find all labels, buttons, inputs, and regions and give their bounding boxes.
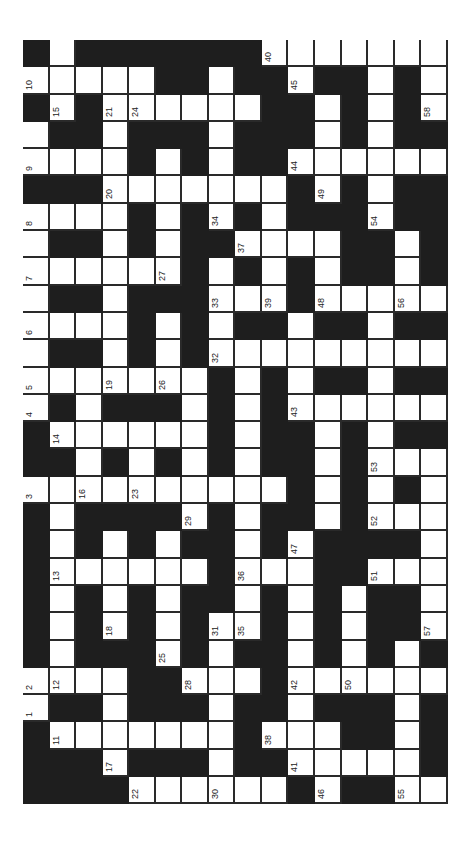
crossword-cell[interactable]: 42	[288, 668, 315, 695]
crossword-cell[interactable]	[315, 258, 342, 285]
crossword-cell[interactable]	[421, 340, 448, 367]
crossword-cell[interactable]	[103, 668, 130, 695]
crossword-cell[interactable]	[76, 722, 103, 749]
crossword-cell[interactable]	[209, 149, 236, 176]
crossword-cell[interactable]	[182, 395, 209, 422]
crossword-cell[interactable]	[395, 559, 422, 586]
crossword-cell[interactable]	[395, 504, 422, 531]
crossword-cell[interactable]	[288, 368, 315, 395]
crossword-cell[interactable]	[103, 722, 130, 749]
crossword-cell[interactable]	[315, 668, 342, 695]
crossword-cell[interactable]: 31	[209, 613, 236, 640]
crossword-cell[interactable]	[182, 559, 209, 586]
crossword-cell[interactable]: 15	[50, 95, 77, 122]
crossword-cell[interactable]	[103, 586, 130, 613]
crossword-cell[interactable]	[342, 286, 369, 313]
crossword-cell[interactable]	[182, 422, 209, 449]
crossword-cell[interactable]	[76, 258, 103, 285]
crossword-cell[interactable]: 5	[23, 368, 50, 395]
crossword-cell[interactable]	[129, 258, 156, 285]
crossword-cell[interactable]: 24	[129, 95, 156, 122]
crossword-cell[interactable]	[395, 395, 422, 422]
crossword-cell[interactable]	[342, 40, 369, 67]
crossword-cell[interactable]: 17	[103, 750, 130, 777]
crossword-cell[interactable]	[395, 231, 422, 258]
crossword-cell[interactable]	[209, 477, 236, 504]
crossword-cell[interactable]	[182, 368, 209, 395]
crossword-cell[interactable]	[421, 504, 448, 531]
crossword-cell[interactable]	[50, 641, 77, 668]
crossword-cell[interactable]	[368, 40, 395, 67]
crossword-cell[interactable]	[315, 40, 342, 67]
crossword-cell[interactable]	[342, 613, 369, 640]
crossword-cell[interactable]	[368, 750, 395, 777]
crossword-cell[interactable]	[315, 504, 342, 531]
crossword-cell[interactable]	[50, 613, 77, 640]
crossword-cell[interactable]	[103, 258, 130, 285]
crossword-cell[interactable]	[235, 504, 262, 531]
crossword-cell[interactable]	[156, 531, 183, 558]
crossword-cell[interactable]	[421, 149, 448, 176]
crossword-cell[interactable]: 30	[209, 777, 236, 804]
crossword-cell[interactable]	[421, 777, 448, 804]
crossword-cell[interactable]	[103, 313, 130, 340]
crossword-cell[interactable]	[342, 149, 369, 176]
crossword-cell[interactable]	[235, 531, 262, 558]
crossword-cell[interactable]	[288, 340, 315, 367]
crossword-cell[interactable]	[76, 149, 103, 176]
crossword-cell[interactable]	[76, 313, 103, 340]
crossword-cell[interactable]	[368, 340, 395, 367]
crossword-cell[interactable]	[182, 477, 209, 504]
crossword-cell[interactable]	[288, 559, 315, 586]
crossword-cell[interactable]	[421, 668, 448, 695]
crossword-cell[interactable]	[156, 477, 183, 504]
crossword-cell[interactable]	[368, 67, 395, 94]
crossword-cell[interactable]	[103, 422, 130, 449]
crossword-cell[interactable]: 11	[50, 722, 77, 749]
crossword-cell[interactable]: 28	[182, 668, 209, 695]
crossword-cell[interactable]: 8	[23, 204, 50, 231]
crossword-cell[interactable]	[262, 176, 289, 203]
crossword-cell[interactable]: 13	[50, 559, 77, 586]
crossword-cell[interactable]	[182, 449, 209, 476]
crossword-cell[interactable]: 34	[209, 204, 236, 231]
crossword-cell[interactable]	[342, 641, 369, 668]
crossword-cell[interactable]	[156, 722, 183, 749]
crossword-cell[interactable]	[235, 368, 262, 395]
crossword-cell[interactable]	[235, 477, 262, 504]
crossword-cell[interactable]: 29	[182, 504, 209, 531]
crossword-cell[interactable]	[315, 395, 342, 422]
crossword-cell[interactable]	[315, 422, 342, 449]
crossword-cell[interactable]	[288, 695, 315, 722]
crossword-cell[interactable]	[76, 449, 103, 476]
crossword-cell[interactable]	[50, 531, 77, 558]
crossword-cell[interactable]	[395, 258, 422, 285]
crossword-cell[interactable]: 57	[421, 613, 448, 640]
crossword-cell[interactable]	[262, 204, 289, 231]
crossword-cell[interactable]	[209, 750, 236, 777]
crossword-cell[interactable]	[262, 559, 289, 586]
crossword-cell[interactable]	[315, 449, 342, 476]
crossword-cell[interactable]: 1	[23, 695, 50, 722]
crossword-cell[interactable]: 46	[315, 777, 342, 804]
crossword-cell[interactable]: 27	[156, 258, 183, 285]
crossword-cell[interactable]	[23, 286, 50, 313]
crossword-cell[interactable]	[50, 504, 77, 531]
crossword-cell[interactable]: 43	[288, 395, 315, 422]
crossword-cell[interactable]	[76, 368, 103, 395]
crossword-cell[interactable]	[50, 40, 77, 67]
crossword-cell[interactable]: 10	[23, 67, 50, 94]
crossword-cell[interactable]: 18	[103, 613, 130, 640]
crossword-cell[interactable]	[209, 695, 236, 722]
crossword-cell[interactable]	[288, 613, 315, 640]
crossword-cell[interactable]	[288, 722, 315, 749]
crossword-cell[interactable]	[103, 477, 130, 504]
crossword-cell[interactable]	[342, 586, 369, 613]
crossword-cell[interactable]	[342, 395, 369, 422]
crossword-cell[interactable]	[209, 122, 236, 149]
crossword-cell[interactable]	[421, 586, 448, 613]
crossword-cell[interactable]	[315, 122, 342, 149]
crossword-cell[interactable]	[421, 40, 448, 67]
crossword-cell[interactable]	[103, 559, 130, 586]
crossword-cell[interactable]	[156, 613, 183, 640]
